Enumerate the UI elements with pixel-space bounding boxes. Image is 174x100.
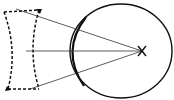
concave-lens	[4, 10, 39, 89]
diagram-canvas	[0, 0, 174, 100]
ray-diagram	[0, 0, 174, 100]
ray-bottom	[30, 51, 142, 89]
